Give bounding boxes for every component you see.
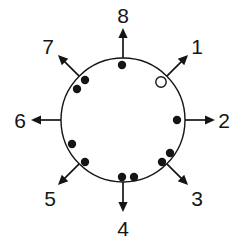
direction-arrow-7 xyxy=(58,55,79,76)
direction-arrow-8 xyxy=(118,28,127,58)
direction-arrow-1 xyxy=(167,55,188,76)
direction-label-4: 4 xyxy=(117,217,129,240)
direction-arrow-5 xyxy=(58,164,79,185)
dot-lower-right-b xyxy=(158,158,166,166)
direction-label-1: 1 xyxy=(191,35,203,58)
dot-bottom-b xyxy=(130,173,138,181)
direction-label-6: 6 xyxy=(14,109,26,132)
figure-canvas: 12345678 xyxy=(0,0,242,243)
dot-bottom-a xyxy=(118,173,126,181)
direction-label-3: 3 xyxy=(191,187,203,210)
dot-lower-left xyxy=(81,158,89,166)
dot-upper-left-a xyxy=(81,76,89,84)
direction-arrow-4 xyxy=(118,182,127,212)
direction-label-2: 2 xyxy=(218,109,230,132)
dot-left-lower xyxy=(68,140,76,148)
markers-group xyxy=(68,61,181,181)
direction-label-8: 8 xyxy=(117,4,129,27)
direction-arrow-6 xyxy=(31,115,61,124)
main-circle xyxy=(61,58,185,182)
direction-label-7: 7 xyxy=(42,35,54,58)
circular-direction-diagram: 12345678 xyxy=(0,0,242,243)
open-circle-upper-right xyxy=(156,77,166,87)
direction-label-5: 5 xyxy=(44,187,56,210)
dot-top xyxy=(118,61,126,69)
arrows-group xyxy=(31,28,215,212)
circle-group xyxy=(61,58,185,182)
dot-lower-right-a xyxy=(166,149,174,157)
direction-arrow-3 xyxy=(167,164,188,185)
dot-right xyxy=(173,116,181,124)
direction-arrow-2 xyxy=(185,115,215,124)
dot-upper-left-b xyxy=(73,85,81,93)
